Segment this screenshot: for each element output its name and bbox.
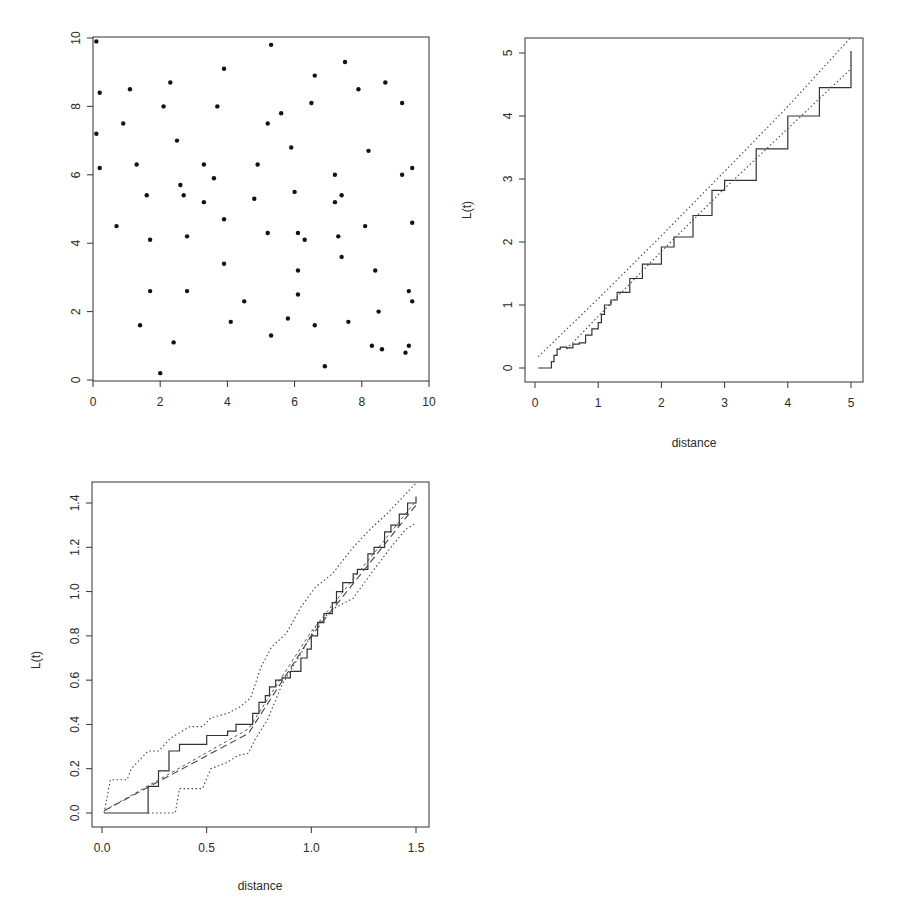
x-tick-label: 4 [224, 395, 231, 409]
y-tick-label: 0.0 [68, 804, 82, 821]
scatter-point [356, 87, 360, 91]
scatter-point [242, 299, 246, 303]
y-tick-label: 0.4 [68, 716, 82, 733]
series-observed-l-t- [104, 496, 416, 813]
scatter-point [279, 111, 283, 115]
scatter-point [366, 149, 370, 153]
scatter-point [323, 364, 327, 368]
scatter-point [94, 39, 98, 43]
scatter-point [336, 234, 340, 238]
y-axis-label: L(t) [460, 201, 474, 219]
scatter-point [286, 316, 290, 320]
series-upper-envelope [538, 37, 851, 356]
x-axis: 012345 [532, 382, 855, 410]
scatter-point [343, 60, 347, 64]
y-tick-label: 4 [69, 240, 83, 247]
scatter-point [171, 340, 175, 344]
scatter-point [114, 224, 118, 228]
scatter-point [373, 268, 377, 272]
scatter-point [94, 132, 98, 136]
x-axis: 0246810 [90, 381, 436, 409]
scatter-point [175, 138, 179, 142]
scatter-point [128, 87, 132, 91]
y-tick-label: 5 [501, 49, 515, 56]
x-axis-label: distance [672, 436, 717, 450]
l-function-full-panel: 012345 012345 distance L(t) [460, 37, 863, 450]
line-series [538, 37, 851, 368]
y-tick-label: 1.0 [68, 583, 82, 600]
x-axis: 0.00.51.01.5 [94, 827, 425, 855]
scatter-point [339, 255, 343, 259]
y-tick-label: 10 [69, 31, 83, 45]
series-theoretical [104, 505, 416, 811]
scatter-point [255, 162, 259, 166]
scatter-point [222, 217, 226, 221]
x-tick-label: 0.5 [198, 841, 215, 855]
scatter-point [309, 101, 313, 105]
y-tick-label: 0.2 [68, 760, 82, 777]
y-axis-label: L(t) [29, 651, 43, 669]
y-tick-label: 4 [501, 112, 515, 119]
scatter-point [410, 166, 414, 170]
y-tick-label: 0.8 [68, 627, 82, 644]
y-tick-label: 0 [69, 376, 83, 383]
scatter-point [296, 231, 300, 235]
x-tick-label: 1 [595, 396, 602, 410]
scatter-point [121, 121, 125, 125]
scatter-point [222, 67, 226, 71]
scatter-point [168, 80, 172, 84]
scatter-point [296, 292, 300, 296]
scatter-point [383, 80, 387, 84]
scatter-point [185, 234, 189, 238]
scatter-point [148, 238, 152, 242]
scatter-point [370, 344, 374, 348]
x-tick-label: 10 [422, 395, 436, 409]
scatter-point [202, 162, 206, 166]
scatter-point [269, 43, 273, 47]
series-upper-envelope [104, 483, 416, 813]
y-tick-label: 2 [501, 238, 515, 245]
scatter-point [222, 262, 226, 266]
scatter-point [229, 320, 233, 324]
x-tick-label: 2 [157, 395, 164, 409]
x-tick-label: 4 [784, 396, 791, 410]
x-tick-label: 0 [532, 396, 539, 410]
l-function-zoom-panel: 0.00.51.01.5 0.00.20.40.60.81.01.21.4 di… [29, 482, 429, 893]
scatter-point [158, 371, 162, 375]
scatter-point [266, 121, 270, 125]
x-axis-label: distance [238, 879, 283, 893]
scatter-point [333, 173, 337, 177]
scatter-point [410, 299, 414, 303]
y-tick-label: 3 [501, 175, 515, 182]
y-axis: 0246810 [69, 31, 93, 383]
scatter-point [400, 173, 404, 177]
scatter-point [363, 224, 367, 228]
y-tick-label: 6 [69, 171, 83, 178]
plot-frame [92, 482, 429, 827]
scatter-point [145, 193, 149, 197]
scatter-point [178, 183, 182, 187]
x-tick-label: 1.5 [408, 841, 425, 855]
scatter-point [98, 166, 102, 170]
scatter-point [346, 320, 350, 324]
scatter-point [407, 289, 411, 293]
scatter-point [302, 238, 306, 242]
line-series [104, 483, 416, 813]
scatter-panel: 0246810 0246810 [69, 31, 436, 409]
scatter-point [148, 289, 152, 293]
scatter-point [339, 193, 343, 197]
scatter-points [94, 39, 414, 375]
x-tick-label: 0 [90, 395, 97, 409]
y-axis: 0.00.20.40.60.81.01.21.4 [68, 494, 92, 821]
x-tick-label: 0.0 [94, 841, 111, 855]
y-tick-label: 0 [501, 364, 515, 371]
scatter-point [215, 104, 219, 108]
scatter-point [269, 333, 273, 337]
scatter-point [134, 162, 138, 166]
plot-frame [525, 38, 863, 382]
series-lower-envelope [567, 69, 851, 349]
scatter-point [403, 350, 407, 354]
series-observed-l-t- [538, 51, 851, 368]
scatter-point [407, 344, 411, 348]
x-tick-label: 3 [721, 396, 728, 410]
